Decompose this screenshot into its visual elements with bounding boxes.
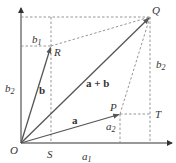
label-vector-a: a [72, 114, 78, 126]
label-vector-b: b [39, 84, 45, 96]
vector-addition-diagram: O S R P T Q a b a + b a1 a2 b1 b2 b2 [0, 0, 176, 163]
label-Q: Q [152, 4, 160, 16]
label-S: S [47, 148, 53, 160]
label-b2-left: b2 [5, 82, 15, 96]
vectors [21, 18, 149, 143]
label-O: O [10, 144, 18, 156]
label-R: R [53, 46, 61, 58]
axes [21, 8, 172, 143]
label-a2: a2 [106, 120, 116, 134]
label-b1: b1 [32, 33, 42, 47]
label-P: P [109, 101, 117, 113]
label-T: T [155, 108, 162, 120]
label-b2-right: b2 [156, 58, 166, 72]
label-vector-a-plus-b: a + b [86, 77, 109, 89]
label-a1: a1 [82, 150, 92, 163]
